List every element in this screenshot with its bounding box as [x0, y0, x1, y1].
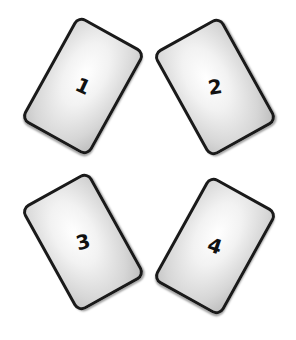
- card-4[interactable]: 4: [152, 175, 278, 318]
- card-number: 3: [74, 231, 92, 254]
- card-3[interactable]: 3: [20, 171, 146, 314]
- card-1[interactable]: 1: [20, 15, 146, 158]
- card-2[interactable]: 2: [152, 16, 278, 159]
- card-number: 4: [205, 234, 225, 257]
- card-number: 2: [207, 76, 224, 98]
- card-number: 1: [72, 74, 93, 98]
